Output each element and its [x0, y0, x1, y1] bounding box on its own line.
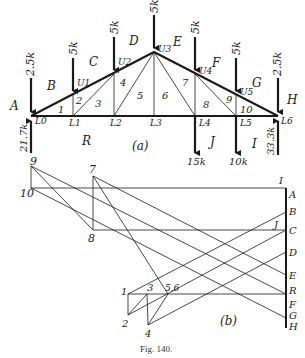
part-a-label: (a)	[132, 139, 149, 153]
panel-number-5: 5	[137, 90, 143, 101]
panel-number-9: 9	[226, 94, 233, 105]
panel-number-8: 8	[203, 99, 209, 110]
poly-node-4: 4	[144, 328, 151, 339]
poly-node-1: 1	[121, 286, 127, 297]
poly-label-I: I	[278, 175, 284, 186]
panel-number-4: 4	[119, 77, 126, 88]
joint-label-L5: L5	[239, 118, 252, 128]
joint-label-L3: L3	[149, 118, 162, 128]
poly-line-2-C	[128, 230, 286, 315]
poly-line-7-56	[93, 176, 168, 294]
figure-caption: Fig. 140.	[140, 344, 172, 354]
truss-figure: 2.5k 5k 5k 5k 5k 5k 2.5k 15k 10k 21.7k 3…	[0, 0, 305, 358]
poly-line-3-4	[147, 294, 148, 325]
space-label-R: R	[81, 134, 91, 148]
reaction-label-L0: 21.7k	[18, 124, 29, 153]
load-label-U5: 5k	[230, 41, 243, 55]
reaction-label-L6: 33.3k	[265, 127, 276, 155]
panel-number-3: 3	[95, 98, 101, 109]
panel-number-6: 6	[162, 90, 169, 101]
load-label-L4: 15k	[187, 156, 206, 167]
poly-label-H: H	[288, 321, 298, 332]
joint-label-L6: L6	[280, 116, 293, 126]
panel-number-7: 7	[182, 77, 189, 88]
joint-label-U4: U4	[199, 66, 213, 76]
part-b-label: (b)	[220, 314, 237, 328]
panel-number-2: 2	[75, 95, 82, 106]
poly-label-F: F	[288, 299, 297, 310]
poly-node-7: 7	[89, 163, 96, 176]
joint-label-L4: L4	[198, 118, 211, 128]
panel-number-10: 10	[240, 104, 253, 115]
load-label-L0: 2.5k	[24, 52, 37, 77]
space-label-G: G	[252, 76, 262, 90]
poly-node-5-6: 5,6	[165, 283, 180, 293]
poly-label-D: D	[288, 247, 297, 258]
space-label-F: F	[211, 56, 221, 70]
truss-diagram: 2.5k 5k 5k 5k 5k 5k 2.5k 15k 10k 21.7k 3…	[9, 0, 298, 167]
space-label-H: H	[286, 93, 298, 107]
joint-label-U2: U2	[118, 57, 132, 67]
poly-line-2-3	[128, 294, 147, 315]
poly-node-8: 8	[88, 232, 95, 245]
load-label-L5: 10k	[229, 156, 248, 167]
poly-line-9-8	[31, 166, 93, 230]
joint-label-U3: U3	[158, 44, 172, 54]
space-label-A: A	[9, 99, 19, 113]
poly-label-C: C	[289, 225, 297, 236]
space-label-I: I	[251, 137, 257, 151]
load-label-U3: 5k	[148, 0, 161, 13]
space-label-E: E	[172, 35, 182, 49]
poly-node-2: 2	[121, 318, 128, 329]
poly-label-R: R	[288, 285, 297, 296]
poly-node-10: 10	[20, 187, 34, 200]
load-label-U4: 5k	[189, 20, 202, 34]
poly-label-A: A	[288, 189, 296, 200]
space-label-J: J	[207, 135, 216, 149]
poly-label-J: J	[272, 219, 279, 230]
load-label-U2: 5k	[108, 20, 121, 34]
joint-label-L2: L2	[109, 118, 122, 128]
joint-label-U1: U1	[77, 78, 90, 88]
load-label-U1: 5k	[67, 41, 80, 55]
joint-label-L0: L0	[34, 116, 47, 126]
force-polygon: I A B C J D E R F G H 1 2 3 4 5,6 7 8 9 …	[20, 155, 298, 339]
poly-label-E: E	[288, 270, 297, 281]
panel-number-1: 1	[58, 104, 64, 115]
poly-label-B: B	[288, 206, 296, 217]
load-label-L6: 2.5k	[271, 52, 284, 77]
poly-node-3: 3	[147, 282, 153, 293]
poly-label-G: G	[289, 310, 297, 321]
poly-line-7-E	[93, 176, 286, 275]
space-label-B: B	[46, 79, 56, 93]
space-label-C: C	[89, 55, 98, 69]
space-label-D: D	[128, 34, 139, 48]
poly-node-9: 9	[30, 155, 37, 168]
joint-label-L1: L1	[68, 118, 81, 128]
